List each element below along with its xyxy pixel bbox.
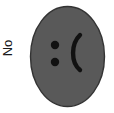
- eye-lower-dot-icon: [51, 58, 59, 66]
- eye-upper-dot-icon: [51, 41, 59, 49]
- sad-face-icon: [0, 0, 114, 113]
- face-ellipse: [31, 7, 105, 107]
- figure-canvas: No: [0, 0, 114, 113]
